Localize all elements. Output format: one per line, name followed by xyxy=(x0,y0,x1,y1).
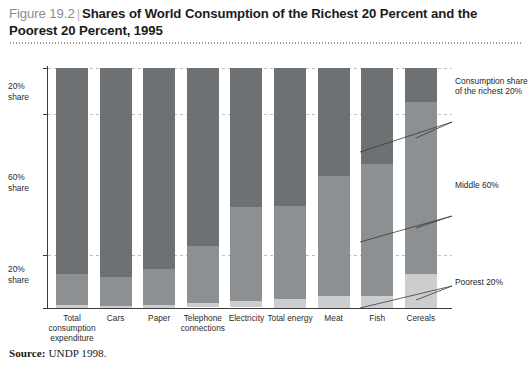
bar-cereals xyxy=(405,68,437,308)
bar-segment-poorest xyxy=(143,305,175,308)
callout-poorest-share: Poorest 20% xyxy=(455,277,531,287)
source-label: Source: xyxy=(9,347,45,359)
figure-title-block: Figure 19.2|Shares of World Consumption … xyxy=(9,5,509,39)
bar-segment-middle xyxy=(318,176,350,296)
bar-meat xyxy=(318,68,350,308)
bar-segment-richest xyxy=(361,68,393,164)
bar-segment-richest xyxy=(318,68,350,176)
bar-electricity xyxy=(230,68,262,308)
bar-segment-middle xyxy=(274,206,306,299)
callout-richest-share: Consumption share of the richest 20% xyxy=(455,76,531,97)
bar-segment-poorest xyxy=(100,306,132,308)
bar-total-consumption-expenditure xyxy=(56,68,88,308)
bar-segment-richest xyxy=(274,68,306,206)
bar-total-energy xyxy=(274,68,306,308)
bar-segment-poorest xyxy=(274,299,306,309)
bars-layer xyxy=(0,52,531,312)
bar-segment-poorest xyxy=(230,301,262,307)
bar-fish xyxy=(361,68,393,308)
bar-segment-richest xyxy=(100,68,132,277)
bar-segment-middle xyxy=(187,246,219,304)
bar-segment-richest xyxy=(187,68,219,246)
bar-segment-poorest xyxy=(56,305,88,308)
bar-cars xyxy=(100,68,132,308)
bar-segment-middle xyxy=(100,277,132,306)
figure-number: Figure 19.2 xyxy=(9,6,75,21)
bar-telephone-connections xyxy=(187,68,219,308)
bar-segment-middle xyxy=(361,164,393,296)
bar-paper xyxy=(143,68,175,308)
chart-plot-area: 20% share 60% share 20% share xyxy=(0,52,531,312)
bar-segment-middle xyxy=(56,274,88,305)
bar-segment-middle xyxy=(143,269,175,305)
bar-segment-richest xyxy=(143,68,175,269)
source-line: Source:UNDP 1998. xyxy=(9,347,106,359)
callout-middle-share: Middle 60% xyxy=(455,180,531,190)
title-divider-rule xyxy=(9,42,522,44)
x-axis-label-cereals: Cereals xyxy=(390,313,452,323)
bar-segment-richest xyxy=(405,68,437,102)
figure-title-divider: | xyxy=(75,6,82,21)
bar-segment-poorest xyxy=(405,274,437,308)
bar-segment-poorest xyxy=(187,303,219,307)
bar-segment-richest xyxy=(230,68,262,207)
bar-segment-middle xyxy=(405,102,437,275)
bar-segment-middle xyxy=(230,207,262,301)
bar-segment-poorest xyxy=(361,296,393,308)
bar-segment-richest xyxy=(56,68,88,274)
source-text: UNDP 1998. xyxy=(45,347,106,359)
bar-segment-poorest xyxy=(318,296,350,308)
